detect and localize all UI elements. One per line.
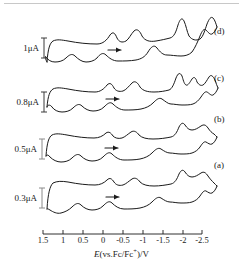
curve-b-scan-arrowhead [113,146,118,151]
cv-plot-area [0,0,243,268]
curve-c-scan-arrowhead [114,97,119,102]
curve-a-forward [47,170,217,209]
curve-group-a [47,170,217,213]
x-tick-label: -2 [179,235,186,245]
x-tick-label: 0 [101,235,105,245]
x-axis-title: E(vs.Fc/Fc+)/V [0,247,243,259]
curve-label-b: (b) [214,114,225,124]
curve-d-scan-arrowhead [116,48,121,53]
x-tick-label: -1.5 [156,235,169,245]
scalebar-label-b: 0.5μA [0,144,37,154]
scalebar-label-a: 0.3μA [0,193,37,203]
scalebar-c [41,92,47,112]
curve-label-d: (d) [214,26,225,36]
cv-figure: 1μA 0.8μA 0.5μA 0.3μA (d) (c) (b) (a) 1.… [0,0,243,268]
scalebar-d [41,38,47,58]
scalebar-label-d: 1μA [6,43,39,53]
x-tick-label: 1.5 [38,235,49,245]
x-tick-label: 1 [61,235,65,245]
curve-label-a: (a) [214,160,224,170]
curve-d-reverse [45,27,217,62]
curve-b-forward [46,123,217,156]
curve-label-c: (c) [214,73,224,83]
x-tick-label: -1 [139,235,146,245]
x-tick-label: -0.5 [116,235,129,245]
x-axis-ticks [43,230,202,234]
scalebar-b [39,139,45,159]
curve-group-d [45,17,217,62]
curve-c-reverse [47,88,218,112]
x-axis [43,230,202,234]
curve-a-reverse [47,186,217,213]
scalebar-a [39,188,45,208]
curve-d-forward [47,17,217,62]
x-tick-label: -2.5 [195,235,208,245]
curve-c-forward [47,74,218,107]
x-tick-label: 0.5 [78,235,89,245]
curve-group-b [46,123,217,162]
scalebar-label-c: 0.8μA [0,97,39,107]
curve-group-c [47,74,218,112]
curve-a-scan-arrowhead [114,195,119,200]
curve-b-reverse [46,137,217,162]
